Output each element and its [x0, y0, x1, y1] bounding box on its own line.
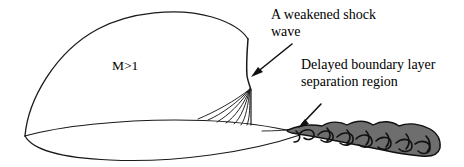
- separation-region-label: Delayed boundary layer separation region: [301, 56, 436, 90]
- shock-wave-label: A weakened shock wave: [271, 6, 376, 40]
- shock-wave-label-line1: A weakened shock: [271, 6, 376, 23]
- separation-region-label-line2: separation region: [301, 73, 436, 90]
- shock-wave-label-line2: wave: [271, 23, 376, 40]
- transonic-airfoil-figure: M>1 A weakened shock wave Delayed bounda…: [0, 0, 464, 167]
- mach-region-label: M>1: [112, 58, 138, 74]
- weakened-shock-segment: [247, 39, 251, 90]
- shock-wave-arrow: [251, 44, 292, 77]
- airfoil-lower-surface: [25, 135, 300, 160]
- expansion-fan: [198, 89, 250, 125]
- airfoil-upper-surface: [25, 120, 297, 136]
- separation-region-label-line1: Delayed boundary layer: [301, 56, 436, 73]
